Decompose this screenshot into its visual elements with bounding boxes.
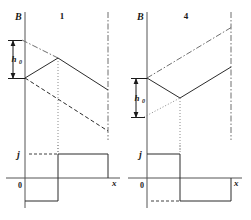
physics-figure: B 1 h 0 j 0 x bbox=[0, 0, 251, 220]
panel-4-field-plot: B 4 h 0 bbox=[131, 11, 232, 152]
panel-1-number: 1 bbox=[60, 11, 65, 21]
panel-4-h0-subscript: 0 bbox=[142, 98, 145, 104]
panel-1-field-solid bbox=[25, 58, 108, 90]
panel-1-field-plot: B 1 h 0 bbox=[8, 11, 108, 152]
panel-4-number: 4 bbox=[184, 11, 189, 21]
panel-1-current-plot: j 0 x bbox=[6, 145, 120, 208]
panel-1-origin-label: 0 bbox=[18, 181, 22, 190]
panel-4-h0-label: h bbox=[134, 93, 139, 103]
panel-1-h0-label: h bbox=[11, 54, 16, 64]
panel-4-current-plot: j 0 x bbox=[128, 145, 242, 208]
panel-4-j-label: j bbox=[137, 149, 142, 160]
panel-1-field-dashed bbox=[25, 78, 108, 131]
panel-1-h0-subscript: 0 bbox=[19, 59, 22, 65]
panel-4-field-solid bbox=[147, 67, 231, 98]
panel-4-dashdot-upper bbox=[147, 27, 232, 78]
panel-4-origin-label: 0 bbox=[140, 181, 144, 190]
panel-1-j-label: j bbox=[15, 149, 20, 160]
panel-1-dashdot-upper bbox=[22, 40, 58, 58]
figure-container: B 1 h 0 j 0 x bbox=[0, 0, 251, 220]
panel-1-b-label: B bbox=[14, 11, 22, 22]
panel-4-x-label: x bbox=[233, 178, 239, 188]
panel-4-b-label: B bbox=[136, 11, 144, 22]
panel-1-x-label: x bbox=[111, 178, 117, 188]
panel-4-field-dotted-lower bbox=[144, 98, 180, 117]
